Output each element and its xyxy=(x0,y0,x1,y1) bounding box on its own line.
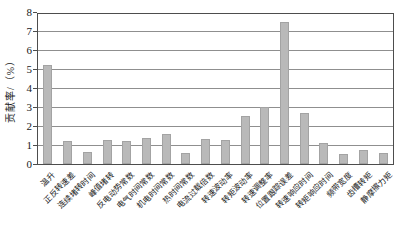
bar-column xyxy=(215,14,235,164)
bar-column xyxy=(156,14,176,164)
bar-转速调整率 xyxy=(260,107,269,164)
bar-column xyxy=(176,14,196,164)
bar-电气时间常数 xyxy=(142,138,151,164)
bar-峰值堵转 xyxy=(103,140,112,164)
bar-转速波动率 xyxy=(221,140,230,164)
bar-column xyxy=(294,14,314,164)
bar-转速响应时间 xyxy=(300,113,309,164)
bar-机电时间常数 xyxy=(162,134,171,164)
bar-电流过载倍数 xyxy=(201,139,210,164)
bar-column xyxy=(196,14,216,164)
bar-column xyxy=(77,14,97,164)
bar-连续堵转时间 xyxy=(83,152,92,164)
y-tick-label: 7 xyxy=(0,25,32,38)
bar-位置跟踪误差 xyxy=(280,22,289,165)
bar-频带宽度 xyxy=(339,154,348,164)
bar-齿槽转矩 xyxy=(359,150,368,164)
bar-column xyxy=(255,14,275,164)
bar-column xyxy=(334,14,354,164)
bar-column xyxy=(117,14,137,164)
y-tick-label: 8 xyxy=(0,6,32,19)
bar-column xyxy=(38,14,58,164)
bar-温升 xyxy=(43,65,52,164)
bar-column xyxy=(354,14,374,164)
bar-column xyxy=(275,14,295,164)
y-tick-label: 1 xyxy=(0,139,32,152)
bar-column xyxy=(137,14,157,164)
contribution-rate-bar-chart: 贡献率/（%） 012345678 温升正反转速差连续堵转时间峰值堵转反电动势常… xyxy=(0,0,401,233)
bar-静摩擦力矩 xyxy=(379,153,388,164)
bar-column xyxy=(235,14,255,164)
bar-column xyxy=(314,14,334,164)
bar-转矩波动率 xyxy=(241,116,250,164)
y-tick-label: 5 xyxy=(0,63,32,76)
plot-area xyxy=(37,13,394,165)
bar-column xyxy=(58,14,78,164)
y-tick-label: 0 xyxy=(0,158,32,171)
bar-series xyxy=(38,14,393,164)
bar-热时间常数 xyxy=(181,153,190,164)
bar-column xyxy=(97,14,117,164)
y-tick-label: 3 xyxy=(0,101,32,114)
bar-正反转速差 xyxy=(63,141,72,164)
y-tick-label: 6 xyxy=(0,44,32,57)
y-tick-label: 2 xyxy=(0,120,32,133)
y-tick-label: 4 xyxy=(0,82,32,95)
bar-转矩响应时间 xyxy=(319,143,328,164)
bar-反电动势常数 xyxy=(122,141,131,164)
bar-column xyxy=(373,14,393,164)
